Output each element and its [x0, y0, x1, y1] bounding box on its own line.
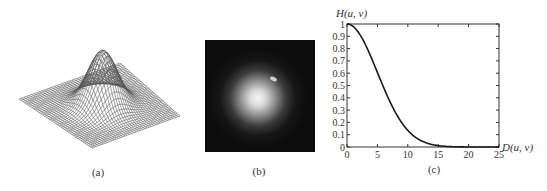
- y-tick-label: 0.5: [333, 80, 346, 91]
- x-axis-label: D(u, v): [501, 141, 533, 154]
- y-tick-label: 0.7: [333, 55, 346, 66]
- x-tick-label: 20: [464, 149, 474, 160]
- x-axis-ticks: 0510152025: [345, 24, 505, 160]
- y-tick-label: 0.8: [333, 43, 346, 54]
- y-tick-label: 0.2: [333, 117, 346, 128]
- x-tick-label: 0: [345, 149, 350, 160]
- x-tick-label: 5: [375, 149, 380, 160]
- y-tick-label: 1: [340, 19, 345, 30]
- y-tick-label: 0.4: [333, 92, 346, 103]
- y-tick-label: 0.1: [333, 129, 346, 140]
- y-axis-ticks: 00.10.20.30.40.50.60.70.80.91: [333, 19, 500, 153]
- x-tick-label: 15: [433, 149, 443, 160]
- y-axis-label: H(u, v): [335, 7, 367, 20]
- y-tick-label: 0.9: [333, 31, 346, 42]
- panel-c-caption: (c): [428, 163, 440, 175]
- filter-curve: [347, 24, 499, 147]
- x-tick-label: 10: [403, 149, 413, 160]
- y-tick-label: 0.6: [333, 68, 346, 79]
- panel-c-line-chart: 00.10.20.30.40.50.60.70.80.91 0510152025…: [0, 0, 547, 191]
- cross-section-chart: 00.10.20.30.40.50.60.70.80.91 0510152025…: [0, 0, 547, 191]
- plot-frame: [347, 24, 499, 147]
- y-tick-label: 0.3: [333, 105, 346, 116]
